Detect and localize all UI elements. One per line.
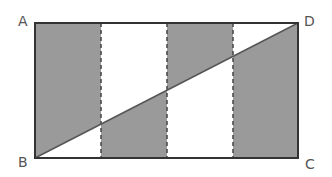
rectangle-diagram xyxy=(0,0,332,177)
vertex-label-d: D xyxy=(304,14,315,28)
vertex-label-a: A xyxy=(18,14,28,28)
vertex-label-b: B xyxy=(18,155,28,169)
shaded-region-strip-1 xyxy=(35,23,101,158)
shaded-region-strip-3 xyxy=(167,23,233,90)
vertex-label-c: C xyxy=(305,157,315,171)
shaded-region-strip-2 xyxy=(101,90,167,158)
shaded-region-strip-4 xyxy=(233,23,298,158)
